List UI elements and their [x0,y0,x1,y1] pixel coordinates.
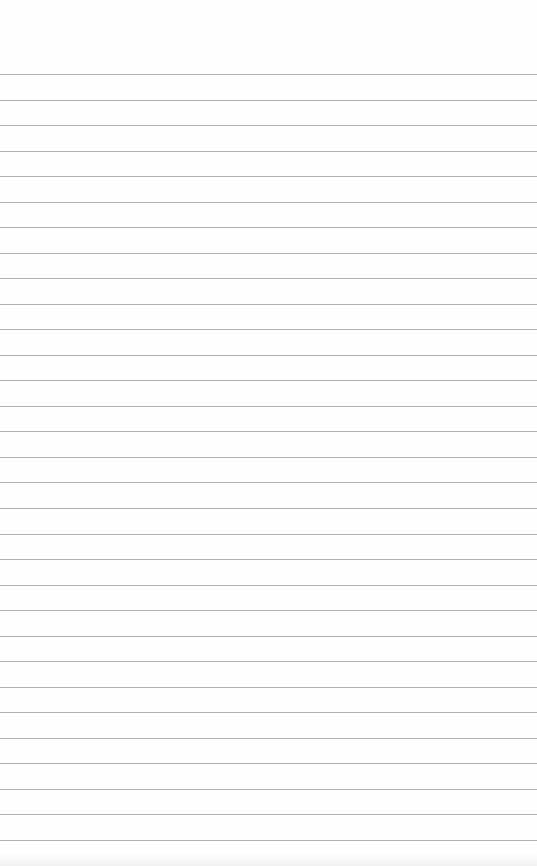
ruled-line [0,431,537,432]
ruled-line [0,738,537,739]
ruled-line [0,687,537,688]
ruled-line [0,176,537,177]
ruled-line [0,482,537,483]
ruled-line [0,508,537,509]
ruled-line [0,840,537,841]
ruled-line [0,74,537,75]
ruled-line [0,559,537,560]
ruled-line [0,380,537,381]
ruled-line [0,636,537,637]
ruled-line [0,585,537,586]
ruled-line [0,100,537,101]
lined-paper [0,0,537,866]
ruled-line [0,789,537,790]
ruled-line [0,278,537,279]
ruled-line [0,814,537,815]
ruled-line [0,457,537,458]
ruled-line [0,227,537,228]
ruled-line [0,355,537,356]
ruled-line [0,151,537,152]
ruled-line [0,534,537,535]
ruled-line [0,661,537,662]
ruled-line [0,329,537,330]
ruled-line [0,304,537,305]
ruled-line [0,406,537,407]
ruled-line [0,202,537,203]
page-edge-shadow [0,854,537,866]
ruled-line [0,125,537,126]
ruled-line [0,712,537,713]
ruled-line [0,610,537,611]
ruled-line [0,763,537,764]
ruled-line [0,253,537,254]
